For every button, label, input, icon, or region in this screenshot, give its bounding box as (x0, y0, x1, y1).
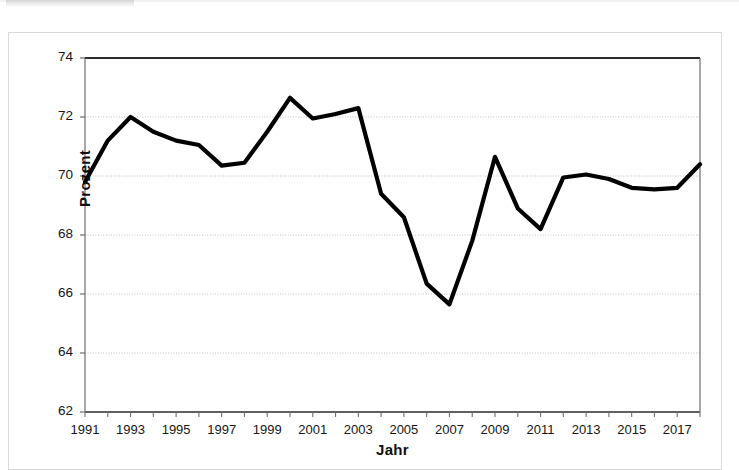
y-tick-label-68: 68 (39, 226, 73, 241)
x-tick-label-2001: 2001 (298, 422, 327, 437)
x-tick-label-1995: 1995 (162, 422, 191, 437)
y-tick-label-74: 74 (39, 49, 73, 64)
x-tick-label-2005: 2005 (389, 422, 418, 437)
y-tick-label-62: 62 (39, 403, 73, 418)
y-tick-label-70: 70 (39, 167, 73, 182)
x-tick-label-2013: 2013 (572, 422, 601, 437)
x-tick-label-2009: 2009 (481, 422, 510, 437)
x-axis-title: Jahr (85, 441, 700, 458)
y-tick-label-64: 64 (39, 344, 73, 359)
x-tick-label-1997: 1997 (207, 422, 236, 437)
x-tick-label-1991: 1991 (71, 422, 100, 437)
x-tick-label-2017: 2017 (663, 422, 692, 437)
x-tick-label-1993: 1993 (116, 422, 145, 437)
y-tick-label-72: 72 (39, 108, 73, 123)
x-tick-label-2003: 2003 (344, 422, 373, 437)
y-axis-title: Prozent (76, 109, 93, 249)
x-tick-label-2015: 2015 (617, 422, 646, 437)
y-tick-label-66: 66 (39, 285, 73, 300)
x-tick-label-1999: 1999 (253, 422, 282, 437)
x-tick-label-2007: 2007 (435, 422, 464, 437)
x-tick-label-2011: 2011 (527, 422, 555, 437)
